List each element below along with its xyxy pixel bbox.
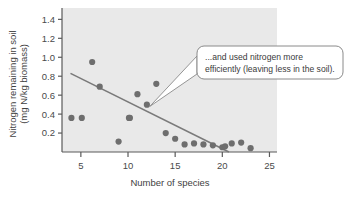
data-point: [127, 115, 133, 121]
callout-box: ...and used nitrogen more efficiently (l…: [197, 46, 343, 79]
data-point: [134, 91, 140, 97]
y-axis-tick-label: 1.2: [42, 33, 55, 44]
data-point: [229, 140, 235, 146]
x-axis-tick-label: 20: [217, 160, 228, 171]
data-point: [210, 142, 216, 148]
data-point: [79, 115, 85, 121]
data-point: [115, 138, 121, 144]
data-point: [68, 115, 74, 121]
data-point: [97, 84, 103, 90]
y-axis-title: Nitrogen remaining in soil (mg N/kg biom…: [7, 30, 29, 137]
y-axis-tick-label: 0.2: [42, 127, 55, 138]
x-axis-title: Number of species: [130, 177, 209, 188]
data-point: [172, 136, 178, 142]
y-axis-tick-label: 1.4: [42, 14, 55, 25]
data-point: [153, 81, 159, 87]
data-point: [247, 145, 253, 151]
y-axis-title-line2: (mg N/kg biomass): [18, 44, 29, 124]
y-axis-title-line1: Nitrogen remaining in soil: [7, 30, 18, 137]
data-point: [222, 143, 228, 149]
data-point: [163, 130, 169, 136]
data-point: [144, 102, 150, 108]
callout-text-line2: efficiently (leaving less in the soil).: [205, 64, 335, 74]
x-axis-tick-label: 15: [170, 160, 181, 171]
nitrogen-scatter-figure: Nitrogen remaining in soil (mg N/kg biom…: [0, 0, 347, 200]
x-axis-tick-label: 5: [78, 160, 83, 171]
callout-text-line1: ...and used nitrogen more: [205, 52, 303, 62]
x-axis-tick-label: 25: [264, 160, 275, 171]
y-axis-tick-label: 0.4: [42, 109, 55, 120]
data-point: [191, 140, 197, 146]
data-point: [200, 141, 206, 147]
x-axis-tick-label: 10: [123, 160, 134, 171]
x-axis: 510152025: [62, 152, 277, 171]
y-axis-tick-label: 1.0: [42, 52, 55, 63]
y-axis: 0.20.40.60.81.01.21.4: [42, 8, 62, 152]
data-point: [238, 139, 244, 145]
plot-background: [62, 8, 277, 152]
chart-svg: Nitrogen remaining in soil (mg N/kg biom…: [0, 0, 347, 200]
y-axis-tick-label: 0.8: [42, 71, 55, 82]
data-point: [89, 59, 95, 65]
y-axis-tick-label: 0.6: [42, 90, 55, 101]
data-point: [181, 141, 187, 147]
callout-bubble: [197, 46, 343, 79]
